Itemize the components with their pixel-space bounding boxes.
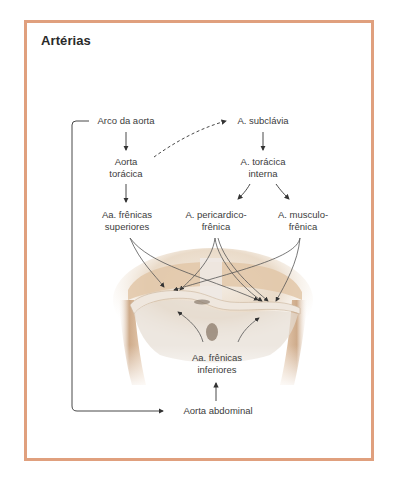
node-aa-frenicas-inferiores: Aa. frênicas inferiores: [192, 352, 242, 376]
node-a-subclavia: A. subclávia: [237, 115, 288, 127]
node-label: A. subclávia: [237, 115, 288, 127]
node-label: A. torácica: [241, 156, 286, 168]
node-label: Aa. frênicas: [192, 352, 242, 364]
arrow-dashed-to-subclavia: [154, 121, 226, 157]
node-label: frênica: [185, 221, 246, 233]
node-label: superiores: [102, 221, 152, 233]
node-label: Aorta abdominal: [183, 405, 252, 417]
node-a-toracica-interna: A. torácica interna: [241, 156, 286, 180]
node-label: frênica: [278, 221, 328, 233]
arrow-to-musculofrenica: [276, 184, 289, 199]
node-aorta-toracica: Aorta torácica: [109, 156, 142, 180]
node-label: interna: [241, 168, 286, 180]
node-label: Aa. frênicas: [102, 209, 152, 221]
node-label: Aorta: [109, 156, 142, 168]
node-label: inferiores: [192, 364, 242, 376]
node-arco-da-aorta: Arco da aorta: [97, 115, 154, 127]
node-a-pericardicofrenica: A. pericardico- frênica: [185, 209, 246, 233]
node-label: torácica: [109, 168, 142, 180]
node-label: A. musculo-: [278, 209, 328, 221]
node-a-musculofrenica: A. musculo- frênica: [278, 209, 328, 233]
node-aa-frenicas-superiores: Aa. frênicas superiores: [102, 209, 152, 233]
node-label: Arco da aorta: [97, 115, 154, 127]
arrow-to-pericardicofrenica: [238, 184, 250, 199]
node-label: A. pericardico-: [185, 209, 246, 221]
node-aorta-abdominal: Aorta abdominal: [183, 405, 252, 417]
